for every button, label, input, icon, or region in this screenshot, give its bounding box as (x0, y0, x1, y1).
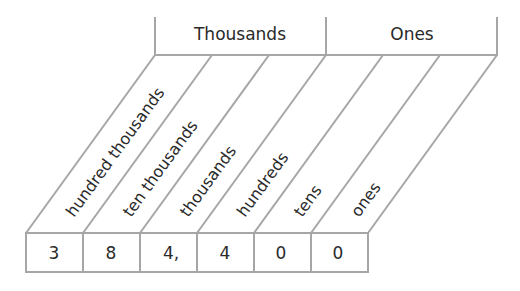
period-thousands-label: Thousands (193, 24, 286, 44)
place-value-chart: Thousands Ones hundred thousands ten tho… (0, 0, 520, 291)
digit-tens: 0 (276, 243, 287, 263)
digit-boxes: 3 8 4, 4 0 0 (26, 233, 368, 272)
period-header: Thousands Ones (154, 17, 498, 56)
digit-ten-thousands: 8 (106, 243, 117, 263)
diagonal-columns (26, 55, 497, 233)
digit-hundred-thousands: 3 (49, 243, 60, 263)
digit-hundreds: 4 (220, 243, 231, 263)
digit-thousands: 4, (163, 243, 179, 263)
period-ones-label: Ones (390, 24, 434, 44)
place-label-hundred-thousands: hundred thousands (62, 84, 168, 221)
place-label-thousands: thousands (176, 142, 240, 220)
place-label-tens: tens (290, 181, 326, 220)
place-label-hundreds: hundreds (233, 148, 293, 220)
digit-ones: 0 (333, 243, 344, 263)
place-label-ones: ones (347, 178, 385, 220)
